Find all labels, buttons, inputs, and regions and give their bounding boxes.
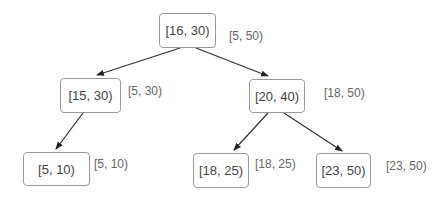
node-max-annotation-right: [18, 50) xyxy=(324,86,365,100)
tree-node-root: [16, 30) xyxy=(159,13,216,48)
edge-left-leftleft xyxy=(56,113,83,149)
edge-root-right xyxy=(196,48,268,76)
tree-node-leftleft: [5, 10) xyxy=(23,152,90,186)
edge-root-left xyxy=(97,48,180,75)
tree-node-left: [15, 30) xyxy=(60,78,121,113)
edge-right-rightright xyxy=(284,113,342,151)
tree-node-rightright: [23, 50) xyxy=(316,153,371,188)
tree-node-right: [20, 40) xyxy=(249,79,305,113)
node-max-annotation-root: [5, 50) xyxy=(229,29,263,43)
tree-node-rightleft: [18, 25) xyxy=(193,153,249,188)
node-max-annotation-leftleft: [5, 10) xyxy=(94,157,128,171)
node-max-annotation-rightleft: [18, 25) xyxy=(255,157,296,171)
node-max-annotation-left: [5, 30) xyxy=(128,84,162,98)
edge-right-rightleft xyxy=(234,113,268,150)
node-max-annotation-rightright: [23, 50) xyxy=(386,159,427,173)
